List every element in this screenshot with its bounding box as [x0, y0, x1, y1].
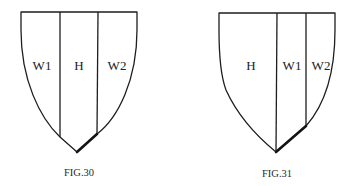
shield-fig31: H W1 W2 FIG.31: [219, 13, 335, 179]
figure-caption: FIG.30: [64, 167, 94, 178]
stripe-label-w1: W1: [33, 58, 52, 73]
stripe-label-h: H: [74, 58, 83, 73]
stripe-divider-right: [97, 12, 98, 134]
stripe-label-w1: W1: [283, 58, 302, 73]
shield-heavy-edge: [276, 126, 306, 152]
shield-outline: [21, 12, 137, 152]
diagram-canvas: W1 H W2 FIG.30 H W1 W2 FIG.31: [0, 0, 362, 186]
stripe-label-h: H: [246, 58, 255, 73]
shield-heavy-edge: [77, 134, 97, 152]
stripe-label-w2: W2: [108, 58, 127, 73]
stripe-label-w2: W2: [312, 58, 331, 73]
stripe-divider-left: [276, 13, 277, 152]
shield-fig30: W1 H W2 FIG.30: [21, 12, 137, 178]
figure-caption: FIG.31: [262, 168, 292, 179]
